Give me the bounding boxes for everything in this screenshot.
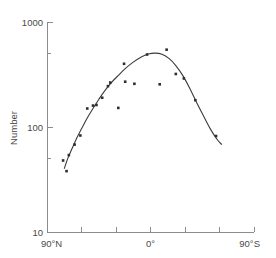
data-point-marker [133, 82, 136, 85]
y-axis-title: Number [8, 111, 19, 145]
data-point-marker [107, 85, 110, 88]
y-axis-tick-label: 10 [32, 227, 43, 238]
data-point-marker [158, 83, 161, 86]
y-axis-tick-labels: 100010010 [22, 17, 43, 238]
data-point-marker [146, 53, 149, 56]
data-point-marker [175, 73, 178, 76]
chart-plot-svg: 100010010 90°N0°90°S Number [0, 0, 276, 258]
data-point-marker [73, 143, 76, 146]
data-point-marker [183, 77, 186, 80]
data-point-marker [62, 159, 65, 162]
x-axis-tick-label: 90°S [239, 238, 260, 249]
data-point-marker [215, 135, 218, 138]
x-axis-tick-labels: 90°N0°90°S [41, 238, 260, 249]
data-point-marker [101, 96, 104, 99]
x-axis-tick-label: 0° [146, 238, 155, 249]
data-point-marker [86, 107, 89, 110]
chart-figure: 100010010 90°N0°90°S Number [0, 0, 276, 258]
y-axis-tick-label: 1000 [22, 17, 43, 28]
fit-curve-line [64, 53, 222, 169]
data-point-marker [68, 154, 71, 157]
data-point-marker [117, 107, 120, 110]
fit-curve-group [64, 53, 222, 169]
y-axis-tick-label: 100 [27, 122, 43, 133]
data-points-group [62, 48, 218, 172]
data-point-marker [123, 62, 126, 65]
data-point-marker [194, 99, 197, 102]
data-point-marker [95, 104, 98, 107]
data-point-marker [109, 81, 112, 84]
data-point-marker [79, 134, 82, 137]
x-axis-tick-label: 90°N [41, 238, 62, 249]
data-point-marker [124, 80, 127, 83]
data-point-marker [92, 104, 95, 107]
data-point-marker [65, 170, 68, 173]
data-point-marker [165, 48, 168, 51]
